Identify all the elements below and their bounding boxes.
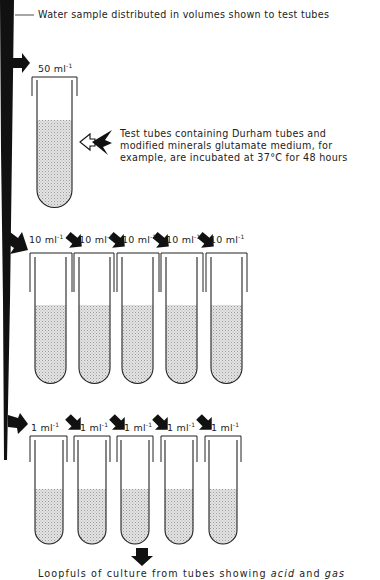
- diagram-graphics: [0, 0, 380, 580]
- volume-label-10ml: 10 ml-1: [210, 233, 244, 245]
- distribution-bar: [0, 0, 34, 460]
- volume-label-1ml: 1 ml-1: [31, 421, 59, 433]
- bar-arrow-10ml: [8, 232, 28, 254]
- tubes-1ml-row: [30, 436, 241, 544]
- tube-50ml: [32, 77, 77, 208]
- incubation-note-line: modified minerals glutamate medium, for: [120, 140, 348, 152]
- volume-label-1ml: 1 ml-1: [124, 421, 152, 433]
- volume-label-10ml: 10 ml-1: [29, 233, 63, 245]
- bar-arrow-1ml: [8, 413, 28, 434]
- volume-label-10ml: 10 ml-1: [122, 233, 156, 245]
- bar-arrow-50ml: [12, 53, 30, 73]
- volume-label-1ml: 1 ml-1: [211, 421, 239, 433]
- volume-label-50ml: 50 ml-1: [38, 62, 72, 74]
- volume-label-10ml: 10 ml-1: [166, 233, 200, 245]
- tubes-10ml-row: [30, 253, 247, 384]
- incubation-note-line: example, are incubated at 37°C for 48 ho…: [120, 152, 348, 164]
- header-caption: Water sample distributed in volumes show…: [38, 9, 329, 21]
- volume-label-1ml: 1 ml-1: [80, 421, 108, 433]
- double-pointing-arrow-icon: [80, 130, 112, 155]
- volume-label-1ml: 1 ml-1: [167, 421, 195, 433]
- incubation-note: Test tubes containing Durham tubes and m…: [120, 128, 348, 164]
- footer-caption: Loopfuls of culture from tubes showing a…: [38, 568, 345, 580]
- incubation-note-line: Test tubes containing Durham tubes and: [120, 128, 348, 140]
- volume-label-10ml: 10 ml-1: [79, 233, 113, 245]
- down-arrow-icon: [131, 548, 153, 566]
